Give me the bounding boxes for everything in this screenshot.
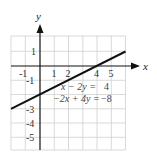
equation-2-lhs: −2x + 4y = — [53, 93, 100, 104]
coordinate-graph: x y -1 1 2 4 5 1 -1 -3 -4 -5 x − 2y = 4 … — [0, 0, 157, 158]
svg-text:-4: -4 — [26, 118, 34, 129]
svg-text:4: 4 — [94, 68, 99, 79]
x-axis-label: x — [142, 60, 148, 72]
svg-text:-3: -3 — [26, 104, 34, 115]
equation-2-rhs: −8 — [101, 93, 112, 104]
svg-text:1: 1 — [31, 46, 36, 57]
svg-text:1: 1 — [52, 68, 57, 79]
equation-1-rhs: 4 — [104, 81, 109, 92]
equation-labels: x − 2y = 4 −2x + 4y = −8 — [53, 81, 112, 104]
svg-text:2: 2 — [66, 68, 71, 79]
x-axis-arrow-icon — [131, 63, 140, 70]
y-axis-label: y — [35, 10, 41, 22]
svg-text:5: 5 — [109, 68, 114, 79]
y-axis-arrow-icon — [37, 24, 44, 33]
equation-1-lhs: x − 2y = — [60, 81, 96, 92]
svg-text:-1: -1 — [26, 75, 34, 86]
svg-text:-5: -5 — [26, 132, 34, 143]
